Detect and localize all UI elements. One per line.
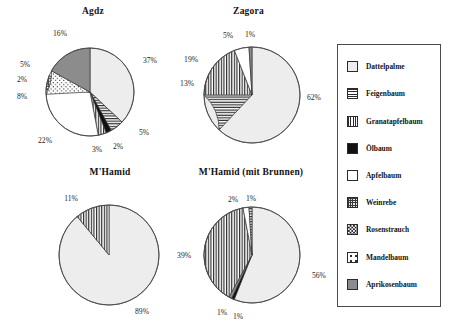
pie-mhamid: 11% 89% (30, 177, 190, 322)
legend-item-granatapfelbaum[interactable]: Granatapfelbaum (347, 110, 440, 132)
legend-label-dattelpalme: Dattelpalme (366, 62, 405, 71)
label-agdz-3: 3% (92, 145, 103, 154)
swatch-rosenstrauch-icon (347, 224, 358, 235)
legend-item-mandelbaum[interactable]: Mandelbaum (347, 246, 440, 268)
swatch-granatapfelbaum-icon (347, 116, 358, 127)
label-agdz-5l: 5% (20, 60, 31, 69)
legend-list: Dattelpalme Feigenbaum Granatapfelbaum Ö… (338, 45, 440, 306)
label-mb-2: 2% (228, 195, 239, 204)
legend-label-granatapfelbaum: Granatapfelbaum (366, 117, 423, 126)
label-agdz-16: 16% (53, 29, 68, 38)
legend-item-aprikosenbaum[interactable]: Aprikosenbaum (347, 273, 440, 295)
swatch-dattelpalme-icon (347, 61, 358, 72)
legend-label-feigenbaum: Feigenbaum (366, 89, 405, 98)
legend-item-rosenstrauch[interactable]: Rosenstrauch (347, 219, 440, 241)
chart-zagora: Zagora 62% 13% 19% 5% 1% (180, 6, 335, 156)
label-zagora-62: 62% (307, 93, 322, 102)
label-mb-56: 56% (312, 271, 327, 280)
swatch-apfelbaum-icon (347, 170, 358, 181)
label-zagora-13: 13% (180, 79, 195, 88)
label-agdz-37: 37% (143, 56, 158, 65)
pie-agdz: 37% 5% 2% 3% 22% 8% 2% 5% 16% (8, 16, 178, 156)
swatch-mandelbaum-icon (347, 252, 358, 263)
pie-zagora: 62% 13% 19% 5% 1% (180, 16, 335, 156)
chart-agdz: Agdz 37% 5% 2% 3% 22% 8% 2 (8, 6, 178, 156)
label-mb-1a: 1% (217, 308, 228, 317)
swatch-weinrebe-icon (347, 197, 358, 208)
chart-mhamid-brunnen: M'Hamid (mit Brunnen) 2% 1% 39% 56% 1% 1… (178, 167, 338, 322)
legend-item-weinrebe[interactable]: Weinrebe (347, 192, 440, 214)
legend: Dattelpalme Feigenbaum Granatapfelbaum Ö… (337, 44, 441, 307)
legend-label-mandelbaum: Mandelbaum (366, 253, 408, 262)
label-agdz-8: 8% (17, 92, 28, 101)
legend-label-apfelbaum: Apfelbaum (366, 171, 401, 180)
chart-title-agdz: Agdz (8, 6, 178, 16)
chart-title-zagora: Zagora (180, 6, 335, 16)
legend-label-rosenstrauch: Rosenstrauch (366, 225, 409, 234)
legend-item-feigenbaum[interactable]: Feigenbaum (347, 83, 440, 105)
pie-chart-figure: { "legend": { "items": [ { "label": "Dat… (0, 0, 450, 329)
legend-label-weinrebe: Weinrebe (366, 198, 396, 207)
swatch-feigenbaum-icon (347, 88, 358, 99)
chart-title-mhamid-brunnen: M'Hamid (mit Brunnen) (178, 167, 338, 177)
label-mb-1t: 1% (246, 194, 257, 203)
pie-mhamid-brunnen: 2% 1% 39% 56% 1% 1% (178, 177, 338, 322)
legend-label-aprikosenbaum: Aprikosenbaum (366, 280, 417, 289)
label-agdz-5b: 5% (139, 128, 150, 137)
label-mb-1b: 1% (233, 312, 244, 321)
swatch-aprikosenbaum-icon (347, 279, 358, 290)
label-agdz-2l: 2% (17, 75, 28, 84)
swatch-oelbaum-icon (347, 143, 358, 154)
label-mhamid-11: 11% (64, 194, 78, 203)
legend-item-apfelbaum[interactable]: Apfelbaum (347, 164, 440, 186)
label-agdz-2b: 2% (113, 142, 124, 151)
legend-item-oelbaum[interactable]: Ölbaum (347, 137, 440, 159)
label-agdz-22: 22% (38, 136, 53, 145)
label-mhamid-89: 89% (135, 307, 150, 316)
label-zagora-19: 19% (184, 55, 199, 64)
label-zagora-5: 5% (223, 31, 234, 40)
label-zagora-1: 1% (245, 30, 256, 39)
chart-title-mhamid: M'Hamid (30, 167, 190, 177)
legend-item-dattelpalme[interactable]: Dattelpalme (347, 56, 440, 78)
chart-mhamid: M'Hamid 11% 89% (30, 167, 190, 322)
legend-label-oelbaum: Ölbaum (366, 144, 392, 153)
label-mb-39: 39% (177, 251, 192, 260)
